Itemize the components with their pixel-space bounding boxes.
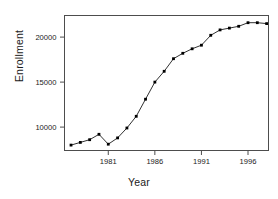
data-point-marker xyxy=(228,27,231,30)
plot-area: 100001500020000 1981198619911996 xyxy=(0,0,278,199)
data-point-marker xyxy=(181,52,184,55)
data-point-marker xyxy=(191,47,194,50)
data-point-marker xyxy=(200,44,203,47)
y-tick-label: 10000 xyxy=(35,123,56,132)
x-tick-label: 1996 xyxy=(240,157,257,166)
data-point-marker xyxy=(70,144,73,147)
data-point-marker xyxy=(265,22,268,25)
data-point-marker xyxy=(172,57,175,60)
data-point-marker xyxy=(144,98,147,101)
data-point-marker xyxy=(98,133,101,136)
data-point-marker xyxy=(116,137,119,140)
data-point-marker xyxy=(79,141,82,144)
data-point-marker xyxy=(107,143,110,146)
data-point-marker xyxy=(219,29,222,32)
x-tick-label: 1991 xyxy=(193,157,210,166)
y-tick-label: 15000 xyxy=(35,78,56,87)
chart-background xyxy=(0,0,278,199)
x-tick-label: 1981 xyxy=(100,157,117,166)
y-tick-label: 20000 xyxy=(35,33,56,42)
x-tick-label: 1986 xyxy=(146,157,163,166)
data-point-marker xyxy=(237,25,240,28)
x-axis-title: Year xyxy=(0,176,278,188)
data-point-marker xyxy=(135,115,138,118)
data-point-marker xyxy=(256,21,259,24)
y-axis-title: Enrollment xyxy=(13,13,25,99)
data-point-marker xyxy=(163,70,166,73)
data-point-marker xyxy=(153,81,156,84)
data-point-marker xyxy=(126,127,129,130)
data-point-marker xyxy=(209,34,212,37)
enrollment-line-chart: 100001500020000 1981198619911996 Enrollm… xyxy=(0,0,278,199)
data-point-marker xyxy=(247,21,250,24)
data-point-marker xyxy=(88,138,91,141)
